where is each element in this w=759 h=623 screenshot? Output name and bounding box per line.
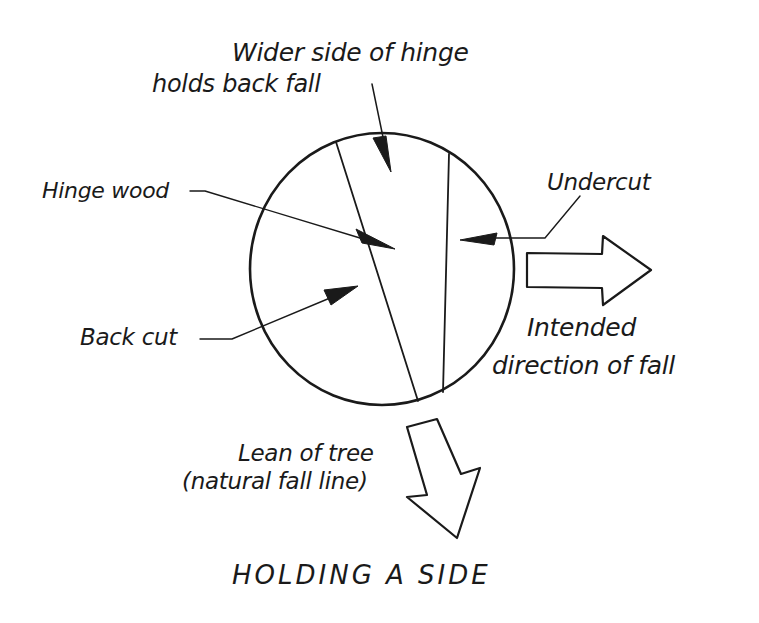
- diagram-canvas: [0, 0, 759, 623]
- label-back-cut: Back cut: [80, 324, 177, 350]
- trunk-circle: [250, 133, 514, 405]
- diagram-title: HOLDING A SIDE: [232, 562, 491, 588]
- hinge-wood-arrow: [190, 191, 395, 249]
- label-hinge-wood: Hinge wood: [42, 178, 169, 204]
- label-lean-line2: (natural fall line): [182, 468, 368, 494]
- label-intended-line2: direction of fall: [492, 353, 675, 379]
- label-undercut: Undercut: [547, 169, 650, 195]
- label-intended-line1: Intended: [527, 315, 636, 341]
- label-wider-side-line1: Wider side of hinge: [232, 40, 469, 66]
- wider-side-arrow: [372, 84, 391, 172]
- intended-fall-arrow: [527, 236, 651, 305]
- back-cut-line: [336, 142, 418, 401]
- lean-arrow: [407, 419, 480, 538]
- label-wider-side-line2: holds back fall: [152, 71, 321, 97]
- back-cut-arrow: [200, 286, 358, 339]
- undercut-arrow: [460, 196, 580, 245]
- undercut-line: [443, 154, 449, 392]
- label-lean-line1: Lean of tree: [238, 440, 374, 466]
